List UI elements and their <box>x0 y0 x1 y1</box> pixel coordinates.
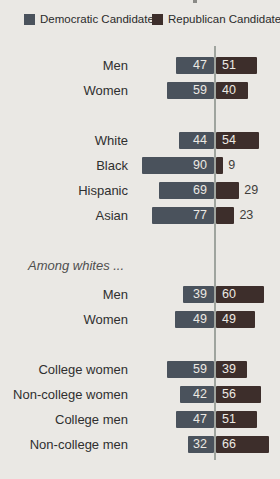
dem-bar: 90 <box>142 157 214 174</box>
rep-bar: 39 <box>216 361 247 378</box>
dem-value: 44 <box>193 132 207 149</box>
dem-bar: 42 <box>180 386 214 403</box>
dem-bar: 69 <box>159 182 214 199</box>
rep-value: 39 <box>222 361 236 378</box>
dem-bar: 59 <box>167 361 214 378</box>
rep-value: 49 <box>222 311 236 328</box>
rep-bar: 51 <box>216 57 257 74</box>
rep-bar: 66 <box>216 436 269 453</box>
dem-bar: 32 <box>188 436 214 453</box>
row-label: College women <box>0 361 128 378</box>
row-label: Asian <box>0 207 128 224</box>
section-row: Among whites ... <box>0 257 280 273</box>
chart-row: Hispanic 69 29 <box>0 182 280 199</box>
rep-value: 51 <box>222 57 236 74</box>
dem-value: 59 <box>193 361 207 378</box>
dem-value: 49 <box>193 311 207 328</box>
rep-bar <box>216 157 223 174</box>
rep-value: 51 <box>222 411 236 428</box>
group-gap <box>0 107 280 132</box>
rep-value: 60 <box>222 286 236 303</box>
rep-bar <box>216 207 234 224</box>
dem-value: 77 <box>193 207 207 224</box>
dem-bar: 47 <box>176 411 214 428</box>
row-label: Non-college men <box>0 436 128 453</box>
chart-row: Men 47 51 <box>0 57 280 74</box>
chart-row: College women 59 39 <box>0 361 280 378</box>
dem-bar: 49 <box>175 311 214 328</box>
row-label: White <box>0 132 128 149</box>
row-label: Women <box>0 82 128 99</box>
dem-bar: 77 <box>152 207 214 224</box>
dem-value: 47 <box>193 57 207 74</box>
rep-bar: 56 <box>216 386 261 403</box>
chart-row: College men 47 51 <box>0 411 280 428</box>
rep-value-outside: 29 <box>244 182 258 199</box>
chart-row: Women 49 49 <box>0 311 280 328</box>
dem-value: 39 <box>193 286 207 303</box>
rep-value-outside: 9 <box>228 157 235 174</box>
dem-bar: 39 <box>183 286 214 303</box>
chart-row: Men 39 60 <box>0 286 280 303</box>
rep-value: 56 <box>222 386 236 403</box>
chart-row: Black 90 9 <box>0 157 280 174</box>
rep-value: 54 <box>222 132 236 149</box>
chart-rows: Men 47 51 Women 59 40 White 44 54 <box>0 57 280 461</box>
section-label: Among whites ... <box>28 258 124 273</box>
dem-value: 90 <box>193 157 207 174</box>
row-label: Women <box>0 311 128 328</box>
legend-item-democratic: Democratic Candidate <box>24 12 154 26</box>
legend-label-democratic: Democratic Candidate <box>40 13 154 25</box>
dem-value: 59 <box>193 82 207 99</box>
row-label: Men <box>0 286 128 303</box>
legend-item-republican: Republican Candidate <box>152 12 280 26</box>
row-label: College men <box>0 411 128 428</box>
row-label: Men <box>0 57 128 74</box>
chart-row: Asian 77 23 <box>0 207 280 224</box>
republican-swatch-icon <box>152 14 163 25</box>
rep-bar: 51 <box>216 411 257 428</box>
row-label: Hispanic <box>0 182 128 199</box>
legend-label-republican: Republican Candidate <box>168 13 280 25</box>
dem-bar: 47 <box>176 57 214 74</box>
dem-value: 47 <box>193 411 207 428</box>
democratic-swatch-icon <box>24 14 35 25</box>
rep-bar: 40 <box>216 82 248 99</box>
dem-value: 69 <box>193 182 207 199</box>
rep-bar: 49 <box>216 311 255 328</box>
dem-value: 42 <box>193 386 207 403</box>
chart-row: Non-college men 32 66 <box>0 436 280 453</box>
dem-bar: 59 <box>167 82 214 99</box>
rep-bar: 60 <box>216 286 264 303</box>
row-label: Black <box>0 157 128 174</box>
row-label: Non-college women <box>0 386 128 403</box>
group-gap <box>0 336 280 361</box>
candidate-support-chart: Democratic Candidate Republican Candidat… <box>0 0 280 479</box>
dem-value: 32 <box>193 436 207 453</box>
chart-row: Women 59 40 <box>0 82 280 99</box>
rep-value: 40 <box>222 82 236 99</box>
group-gap <box>0 232 280 257</box>
crop-artifact-mark <box>193 0 197 3</box>
rep-bar <box>216 182 239 199</box>
dem-bar: 44 <box>179 132 214 149</box>
chart-row: White 44 54 <box>0 132 280 149</box>
rep-value-outside: 23 <box>239 207 253 224</box>
rep-value: 66 <box>222 436 236 453</box>
rep-bar: 54 <box>216 132 259 149</box>
chart-row: Non-college women 42 56 <box>0 386 280 403</box>
